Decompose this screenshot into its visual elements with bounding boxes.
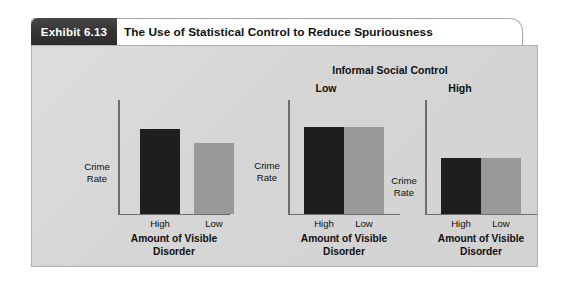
y-axis-line [425, 100, 427, 215]
x-axis-ticks: High Low [425, 218, 537, 231]
y-axis-label-line2: Rate [385, 187, 423, 199]
informal-social-control-header: Informal Social Control [300, 64, 480, 76]
y-axis-label: Crime Rate [78, 161, 116, 184]
y-axis-label: Crime Rate [248, 160, 286, 183]
x-axis-caption-line1: Amount of Visible [407, 233, 555, 246]
x-tick-high: High [140, 218, 180, 229]
x-axis-caption-line2: Disorder [407, 246, 555, 259]
x-axis-line [425, 214, 537, 216]
bar-chart-zero-order: Crime Rate High Low Amount of Visible Di… [78, 100, 238, 260]
exhibit-figure: Exhibit 6.13 The Use of Statistical Cont… [0, 0, 572, 295]
x-tick-low: Low [194, 218, 234, 229]
x-axis-line [118, 214, 230, 216]
x-axis-caption-line2: Disorder [100, 246, 248, 259]
y-axis-line [118, 100, 120, 215]
y-axis-line [288, 100, 290, 215]
x-axis-caption: Amount of Visible Disorder [407, 233, 555, 258]
bar-low [194, 143, 234, 214]
plot-area [425, 100, 537, 215]
y-axis-label-line2: Rate [78, 173, 116, 185]
x-tick-high: High [304, 218, 344, 229]
y-axis-label: Crime Rate [385, 175, 423, 198]
exhibit-number-tab: Exhibit 6.13 [31, 18, 117, 46]
x-tick-high: High [441, 218, 481, 229]
control-high-label: High [420, 82, 500, 94]
x-axis-ticks: High Low [118, 218, 230, 231]
plot-area [118, 100, 230, 215]
bar-low [344, 127, 384, 214]
bar-chart-control-low: Crime Rate High Low Amount of Visible Di… [248, 100, 408, 260]
y-axis-label-line1: Crime [78, 161, 116, 173]
y-axis-label-line1: Crime [385, 175, 423, 187]
bar-low [481, 158, 521, 214]
x-axis-ticks: High Low [288, 218, 400, 231]
bar-high [304, 127, 344, 214]
x-tick-low: Low [481, 218, 521, 229]
x-axis-line [288, 214, 400, 216]
exhibit-title: The Use of Statistical Control to Reduce… [124, 18, 433, 46]
bar-chart-control-high: Crime Rate High Low Amount of Visible Di… [385, 100, 545, 260]
y-axis-label-line1: Crime [248, 160, 286, 172]
x-axis-caption: Amount of Visible Disorder [100, 233, 248, 258]
control-low-label: Low [286, 82, 366, 94]
x-tick-low: Low [344, 218, 384, 229]
x-axis-caption-line1: Amount of Visible [100, 233, 248, 246]
bar-high [441, 158, 481, 214]
bar-high [140, 129, 180, 214]
plot-area [288, 100, 400, 215]
y-axis-label-line2: Rate [248, 172, 286, 184]
